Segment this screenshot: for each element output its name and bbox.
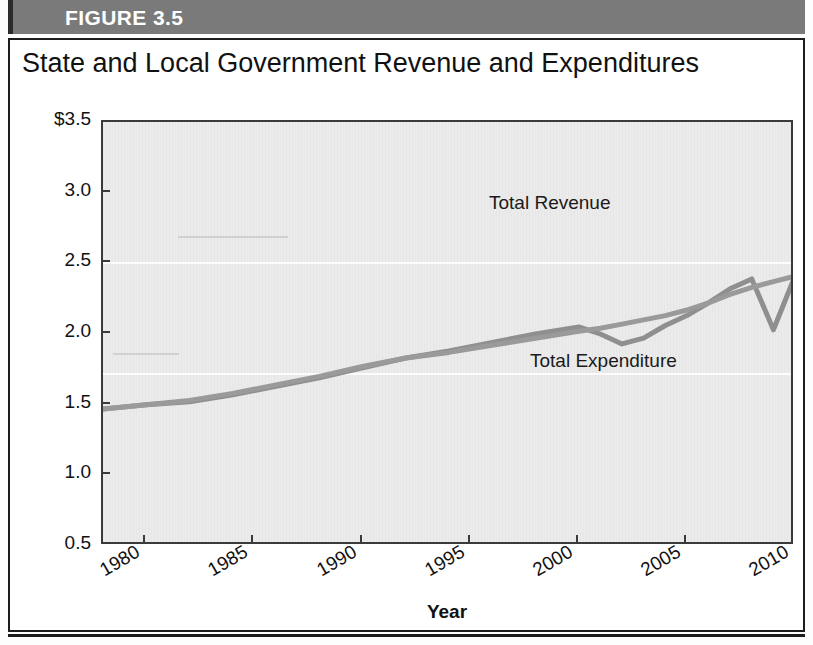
plot-area (101, 120, 793, 544)
figure-container: FIGURE 3.5 State and Local Government Re… (0, 0, 813, 645)
figure-number-label: FIGURE 3.5 (65, 6, 183, 30)
figure-header-band: FIGURE 3.5 (8, 0, 805, 34)
x-tick-mark (468, 535, 470, 544)
y-tick-label: 3.0 (65, 179, 91, 201)
series-lines (103, 122, 793, 544)
x-axis-title: Year (101, 601, 793, 623)
series-line-total-expenditure (103, 276, 793, 409)
y-tick-mark (101, 402, 110, 404)
chart-title: State and Local Government Revenue and E… (22, 48, 699, 79)
y-tick-label: 1.0 (65, 461, 91, 483)
x-tick-mark (143, 535, 145, 544)
x-tick-mark (576, 535, 578, 544)
y-tick-label: $3.5 (54, 108, 91, 130)
figure-bottom-rule (8, 634, 805, 637)
y-tick-mark (101, 472, 110, 474)
x-tick-mark (684, 535, 686, 544)
y-tick-label: 2.0 (65, 320, 91, 342)
y-tick-label: 1.5 (65, 391, 91, 413)
y-tick-label: 2.5 (65, 249, 91, 271)
y-tick-mark (101, 190, 110, 192)
series-label-total-revenue: Total Revenue (489, 192, 610, 214)
x-tick-mark (251, 535, 253, 544)
x-tick-mark (360, 535, 362, 544)
y-tick-mark (101, 331, 110, 333)
series-label-total-expenditure: Total Expenditure (530, 350, 677, 372)
y-tick-mark (101, 260, 110, 262)
y-tick-label: 0.5 (65, 532, 91, 554)
series-line-total-revenue (103, 276, 793, 409)
